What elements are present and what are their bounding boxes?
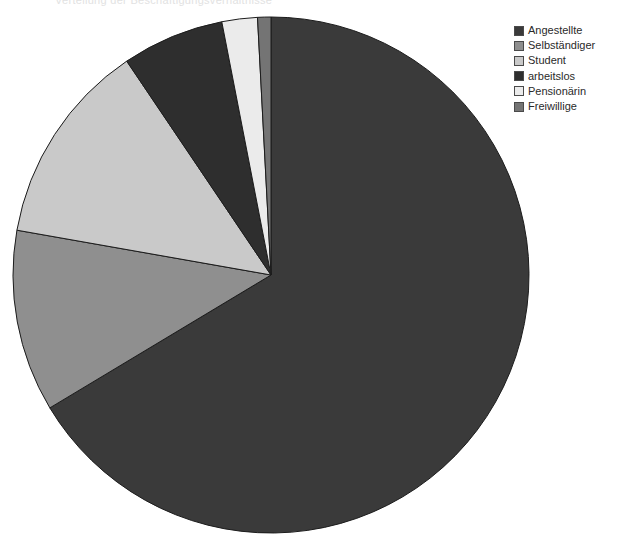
- legend-swatch-icon: [514, 102, 524, 112]
- legend-item: Angestellte: [514, 23, 634, 38]
- legend-item-label: Angestellte: [528, 23, 582, 38]
- legend-item: arbeitslos: [514, 69, 634, 84]
- legend-item-label: arbeitslos: [528, 69, 575, 84]
- pie-slice-group: [13, 17, 529, 533]
- legend-item-label: Selbständiger: [528, 38, 595, 53]
- legend-swatch-icon: [514, 71, 524, 81]
- legend-item: Student: [514, 53, 634, 68]
- legend-swatch-icon: [514, 56, 524, 66]
- legend-item: Pensionärin: [514, 84, 634, 99]
- legend-item-label: Pensionärin: [528, 84, 586, 99]
- legend-swatch-icon: [514, 26, 524, 36]
- legend-item-label: Freiwillige: [528, 99, 577, 114]
- legend-swatch-icon: [514, 41, 524, 51]
- legend-item: Selbständiger: [514, 38, 634, 53]
- legend-item-label: Student: [528, 53, 566, 68]
- legend-item: Freiwillige: [514, 99, 634, 114]
- chart-legend: AngestellteSelbständigerStudentarbeitslo…: [514, 23, 634, 114]
- legend-swatch-icon: [514, 86, 524, 96]
